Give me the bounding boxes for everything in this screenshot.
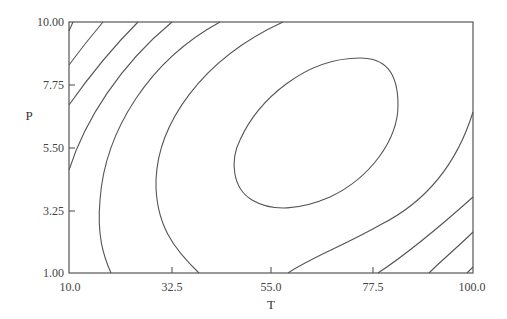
y-tick-label: 1.00	[43, 266, 64, 280]
contour-plot: 10.0 32.5 55.0 77.5 100.0 T 1.00 3.25 5.…	[0, 0, 507, 319]
contour-b	[69, 22, 103, 65]
contour-ellipse	[234, 58, 398, 208]
plot-frame	[69, 22, 473, 273]
x-tick-label: 55.0	[261, 280, 282, 294]
x-tick-label: 32.5	[162, 280, 183, 294]
contour-lines	[69, 22, 473, 273]
contour-i	[429, 232, 473, 273]
contour-c	[69, 22, 138, 105]
contour-e	[99, 22, 220, 273]
x-axis-label: T	[267, 297, 275, 312]
x-tick-label: 10.0	[60, 280, 81, 294]
y-tick-label: 3.25	[43, 204, 64, 218]
y-axis-label: P	[25, 108, 32, 123]
y-axis: 1.00 3.25 5.50 7.75 10.00 P	[25, 15, 75, 280]
y-tick-label: 10.00	[37, 15, 64, 29]
x-axis: 10.0 32.5 55.0 77.5 100.0 T	[60, 267, 486, 312]
x-tick-label: 100.0	[459, 280, 486, 294]
contour-g	[288, 112, 473, 273]
x-tick-label: 77.5	[363, 280, 384, 294]
y-tick-label: 7.75	[43, 78, 64, 92]
contour-h	[378, 197, 473, 273]
contour-j	[467, 267, 473, 273]
contour-f	[156, 22, 283, 273]
y-tick-label: 5.50	[43, 141, 64, 155]
